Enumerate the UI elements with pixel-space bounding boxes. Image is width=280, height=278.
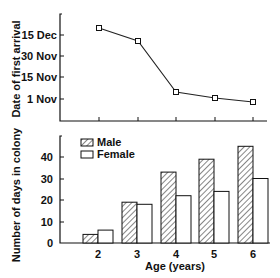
- top-axes: [60, 14, 267, 121]
- bar-female-3: [137, 204, 152, 243]
- top-y-axis-label: Date of first arrival: [10, 20, 22, 117]
- bar-female-5: [214, 191, 229, 243]
- bottom-ytick: 20: [41, 194, 53, 206]
- bottom-x-axis-label: Age (years): [145, 260, 205, 272]
- bars: [83, 146, 268, 243]
- bar-male-4: [161, 172, 176, 243]
- bar-female-6: [253, 179, 268, 244]
- days-chart: Number of days in colony 40 30 20 10 0 M…: [10, 127, 270, 272]
- top-ytick: 15 Nov: [21, 71, 58, 83]
- top-ytick: 1 Nov: [27, 93, 58, 105]
- bar-male-2: [83, 234, 98, 243]
- bar-male-5: [199, 159, 214, 243]
- bottom-xtick: 3: [134, 248, 140, 260]
- arrival-chart: Date of first arrival 15 Dec 30 Nov 15 N…: [10, 14, 267, 121]
- bottom-ytick: 30: [41, 173, 53, 185]
- bar-female-4: [176, 196, 191, 243]
- top-ytick: 30 Nov: [21, 50, 58, 62]
- bottom-y-axis-label: Number of days in colony: [10, 127, 22, 262]
- bottom-xtick: 2: [95, 248, 101, 260]
- bar-male-3: [122, 202, 137, 243]
- legend-female-label: Female: [97, 148, 135, 160]
- legend-male-swatch: [81, 139, 93, 146]
- bottom-ytick: 10: [41, 216, 53, 228]
- bottom-xtick: 4: [173, 248, 180, 260]
- arrival-markers: [97, 26, 256, 105]
- bar-male-6: [238, 146, 253, 243]
- bottom-ytick: 0: [47, 237, 53, 249]
- legend-male-label: Male: [97, 136, 121, 148]
- bottom-ytick: 40: [41, 151, 53, 163]
- legend-female-swatch: [81, 151, 93, 158]
- figure: Date of first arrival 15 Dec 30 Nov 15 N…: [0, 0, 280, 278]
- bottom-xtick: 5: [211, 248, 217, 260]
- bar-female-2: [98, 230, 113, 243]
- top-ytick: 15 Dec: [22, 29, 57, 41]
- bottom-xtick: 6: [250, 248, 256, 260]
